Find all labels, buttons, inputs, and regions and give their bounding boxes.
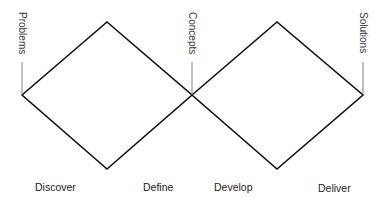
phase-label-develop: Develop [214,181,253,193]
diamond-problem-space [22,22,192,169]
phase-label-deliver: Deliver [318,182,351,194]
milestone-label-concepts: Concepts [187,12,198,54]
milestone-label-solutions: Solutions [358,12,369,53]
phase-label-discover: Discover [35,181,76,193]
diamond-solution-space [192,22,363,169]
milestone-label-problems: Problems [17,12,28,54]
double-diamond-diagram: Problems Concepts Solutions Discover Def… [0,0,382,198]
phase-label-define: Define [143,181,174,193]
